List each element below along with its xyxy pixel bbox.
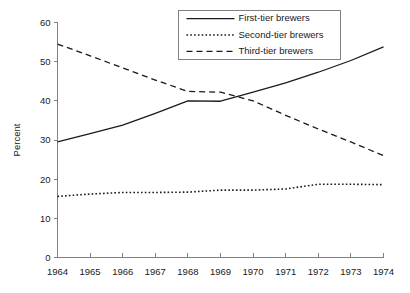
- y-axis-title: Percent: [11, 123, 22, 156]
- y-tick-label: 20: [40, 174, 51, 185]
- x-tick-label: 1968: [177, 266, 198, 277]
- y-tick-label: 50: [40, 56, 51, 67]
- legend-label: Third-tier brewers: [239, 45, 314, 56]
- legend-label: Second-tier brewers: [239, 29, 324, 40]
- x-tick-label: 1966: [112, 266, 133, 277]
- chart-legend: First-tier brewersSecond-tier brewersThi…: [179, 11, 341, 60]
- legend-label: First-tier brewers: [239, 12, 311, 23]
- chart-canvas: 0102030405060 19641965196619671968196919…: [0, 0, 410, 293]
- x-tick-label: 1967: [145, 266, 166, 277]
- y-tick-label: 30: [40, 134, 51, 145]
- y-tick-label: 60: [40, 17, 51, 28]
- x-tick-label: 1971: [275, 266, 296, 277]
- x-tick-label: 1965: [80, 266, 101, 277]
- y-tick-label: 10: [40, 213, 51, 224]
- x-tick-label: 1970: [243, 266, 264, 277]
- x-tick-label: 1973: [340, 266, 361, 277]
- y-tick-label: 40: [40, 95, 51, 106]
- x-tick-label: 1964: [47, 266, 68, 277]
- x-tick-label: 1969: [210, 266, 231, 277]
- y-tick-label: 0: [45, 252, 50, 263]
- line-chart: 0102030405060 19641965196619671968196919…: [0, 0, 410, 293]
- x-tick-label: 1974: [373, 266, 394, 277]
- x-tick-label: 1972: [308, 266, 329, 277]
